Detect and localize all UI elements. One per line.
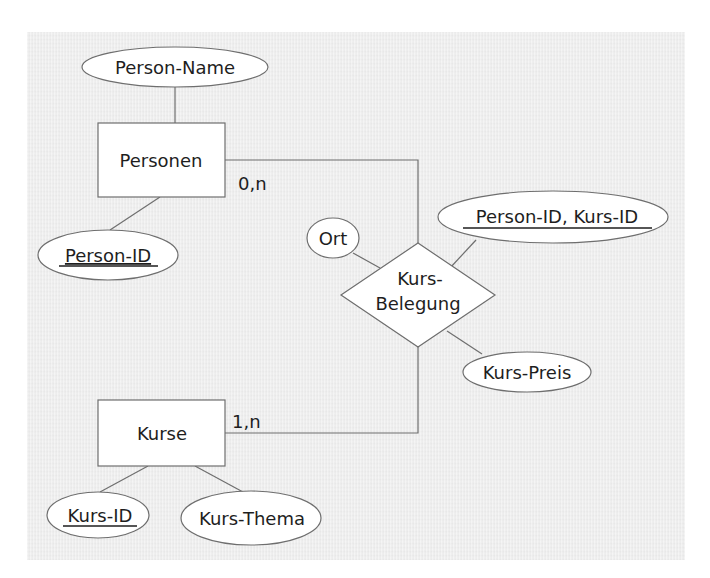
attribute-person-name[interactable]: Person-Name [82,47,268,87]
edge-ort-kurs-belegung [353,253,380,268]
edge-composite-key-kurs-belegung [450,240,476,268]
cardinality-kurse: 1,n [232,411,261,432]
cardinality-personen: 0,n [238,173,267,194]
attribute-kurs-thema[interactable]: Kurs-Thema [181,491,321,545]
entity-kurse-label: Kurse [137,423,187,444]
attribute-kurs-id[interactable]: Kurs-ID [47,492,149,538]
entity-personen-label: Personen [120,150,203,171]
attribute-ort-label: Ort [319,228,348,249]
edge-kurse-kurs-id [100,466,148,492]
entity-kurse[interactable]: Kurse [98,400,225,466]
attribute-kurs-preis-label: Kurs-Preis [483,362,572,383]
relationship-label-line2: Belegung [375,293,460,314]
attribute-kurs-thema-label: Kurs-Thema [199,508,305,529]
er-diagram: Person-Name Personen 0,n Person-ID Ort P… [0,0,710,578]
attribute-person-id[interactable]: Person-ID [38,230,178,280]
entity-personen[interactable]: Personen [98,123,225,197]
attribute-composite-key[interactable]: Person-ID, Kurs-ID [438,191,668,243]
attribute-kurs-id-label: Kurs-ID [68,505,133,526]
attribute-person-id-label: Person-ID [65,245,151,266]
edge-kurs-preis-kurs-belegung [447,331,482,354]
edge-personen-person-id [110,197,160,230]
relationship-label-line1: Kurs- [397,268,443,289]
attribute-ort[interactable]: Ort [307,218,359,258]
attribute-person-name-label: Person-Name [115,57,235,78]
attribute-composite-key-label: Person-ID, Kurs-ID [476,206,638,227]
attribute-kurs-preis[interactable]: Kurs-Preis [463,352,591,392]
edge-kurse-kurs-thema [195,466,243,492]
